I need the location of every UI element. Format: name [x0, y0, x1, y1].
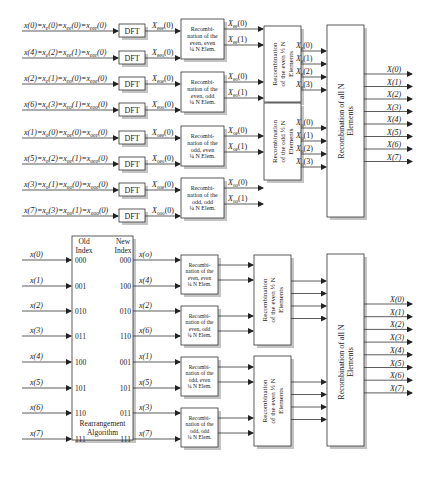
output-label: X(1) — [389, 308, 405, 317]
rearrange-output-label: x(6) — [138, 326, 152, 335]
input-label: x(5)=xo(2)=xoe(1)=xoeo(0) — [23, 154, 108, 164]
dft-output-label: Xooe(0) — [151, 180, 174, 190]
quarter-output-label: Xee(1) — [227, 35, 247, 45]
output-label: X(5) — [389, 359, 405, 368]
old-index-value: 010 — [75, 307, 87, 316]
half-output-label: Xe(3) — [295, 80, 313, 90]
rearrange-output-label: x(3) — [138, 403, 152, 412]
old-index-value: 111 — [75, 435, 86, 444]
quarter-output-label: Xoo(0) — [227, 178, 248, 188]
quarter-recombination-label: Recombi-nation of theodd, even¼ N Elem. — [186, 364, 214, 389]
dft-label: DFT — [124, 212, 139, 221]
new-index-value: 101 — [120, 384, 132, 393]
dft-output-label: Xoeo(0) — [151, 154, 174, 164]
output-label: X(5) — [386, 128, 402, 137]
input-label: x(3)=xo(1)=xoo(0)=xooe(0) — [23, 180, 108, 190]
new-index-value: 000 — [120, 256, 132, 265]
rearrange-output-label: x(1) — [138, 352, 152, 361]
dft-label: DFT — [124, 106, 139, 115]
quarter-recombination-label: Recombi-nation of theeven, even¼ N Elem. — [186, 262, 214, 287]
rearrange-output-label: x(5) — [138, 378, 152, 387]
rearrange-output-label: x(2) — [138, 301, 152, 310]
old-index-value: 001 — [75, 282, 87, 291]
new-index-value: 010 — [120, 307, 132, 316]
input-label: x(2)=xe(1)=xeo(0)=xeoe(0) — [23, 74, 107, 84]
rearrange-input-label: x(7) — [29, 429, 43, 438]
dft-output-label: Xoee(0) — [151, 128, 174, 138]
quarter-output-label: Xoe(1) — [227, 142, 247, 152]
fft-decomposition-diagram: x(0)=xe(0)=xee(0)=xeee(0)DFTx(4)=xe(2)=x… — [0, 0, 434, 497]
rearrange-output-label: x(4) — [138, 276, 152, 285]
quarter-output-label: Xoo(1) — [227, 194, 248, 204]
input-label: x(0)=xe(0)=xee(0)=xeee(0) — [23, 21, 107, 31]
old-index-value: 011 — [75, 332, 86, 341]
new-index-value: 110 — [120, 332, 131, 341]
dft-label: DFT — [124, 134, 139, 143]
rearrange-output-label: x(7) — [138, 429, 152, 438]
output-label: X(7) — [389, 384, 405, 393]
quarter-output-label: Xoe(0) — [227, 126, 247, 136]
dft-output-label: Xeoo(0) — [151, 100, 174, 110]
rearrange-input-label: x(2) — [29, 301, 43, 310]
output-label: X(3) — [386, 103, 402, 112]
old-index-value: 110 — [75, 409, 86, 418]
old-index-value: 000 — [75, 256, 87, 265]
dft-label: DFT — [124, 160, 139, 169]
rearrange-input-label: x(3) — [29, 326, 43, 335]
rearrange-input-label: x(1) — [29, 276, 43, 285]
old-index-value: 100 — [75, 358, 87, 367]
new-index-value: 011 — [120, 409, 131, 418]
half-output-label: Xo(0) — [295, 118, 313, 128]
dft-label: DFT — [124, 54, 139, 63]
output-label: X(0) — [386, 65, 402, 74]
dft-output-label: Xeeo(0) — [151, 48, 174, 58]
rearrange-input-label: x(5) — [29, 378, 43, 387]
quarter-recombination-label: Recombi-nation of theodd, even¼ N Elem. — [187, 133, 218, 160]
quarter-output-label: Xee(0) — [227, 19, 247, 29]
output-label: X(0) — [389, 295, 405, 304]
dft-output-label: Xeoe(0) — [151, 74, 174, 84]
output-label: X(6) — [389, 371, 405, 380]
input-label: x(6)=xe(3)=xeo(1)=xeoo(0) — [23, 100, 108, 110]
dft-label: DFT — [124, 186, 139, 195]
rearrange-input-label: x(0) — [29, 250, 43, 259]
half-output-label: Xe(0) — [295, 41, 313, 51]
input-label: x(1)=xo(0)=xoe(0)=xoee(0) — [23, 128, 108, 138]
output-label: X(1) — [386, 78, 402, 87]
half-output-label: Xo(2) — [295, 144, 313, 154]
new-index-value: 111 — [120, 435, 131, 444]
output-label: X(4) — [386, 115, 402, 124]
top-diagram: x(0)=xe(0)=xee(0)=xeee(0)DFTx(4)=xe(2)=x… — [22, 19, 412, 225]
new-index-value: 100 — [120, 282, 132, 291]
dft-output-label: Xooo(0) — [151, 206, 174, 216]
output-label: X(3) — [389, 333, 405, 342]
quarter-recombination-label: Recombi-nation of theeven, even¼ N Elem. — [187, 26, 218, 53]
quarter-output-label: Xeo(0) — [227, 72, 247, 82]
input-label: x(4)=xe(2)=xee(1)=xeee(0) — [23, 48, 107, 58]
input-label: x(7)=xo(3)=xoo(1)=xooo(0) — [23, 206, 109, 216]
half-output-label: Xe(2) — [295, 67, 313, 77]
half-output-label: Xo(3) — [295, 157, 313, 167]
output-label: X(2) — [386, 90, 402, 99]
half-output-label: Xe(1) — [295, 54, 313, 64]
rearrange-output-label: x(o) — [138, 250, 152, 259]
output-label: X(7) — [386, 153, 402, 162]
dft-output-label: Xeee(0) — [151, 21, 173, 31]
dft-label: DFT — [124, 27, 139, 36]
bottom-diagram: OldIndexNewIndexRearrangementAlgorithmx(… — [22, 236, 412, 450]
output-label: X(6) — [386, 140, 402, 149]
rearrange-input-label: x(6) — [29, 403, 43, 412]
half-output-label: Xo(1) — [295, 131, 313, 141]
quarter-recombination-label: Recombi-nation of theeven, odd¼ N Elem. — [186, 313, 214, 338]
new-index-header: NewIndex — [114, 237, 131, 255]
output-label: X(2) — [389, 320, 405, 329]
old-index-value: 101 — [75, 384, 87, 393]
dft-label: DFT — [124, 80, 139, 89]
rearrange-input-label: x(4) — [29, 352, 43, 361]
new-index-value: 001 — [120, 358, 132, 367]
quarter-output-label: Xeo(1) — [227, 88, 247, 98]
output-label: X(4) — [389, 346, 405, 355]
quarter-recombination-label: Recombi-nation of theeven, odd¼ N Elem. — [187, 79, 218, 106]
